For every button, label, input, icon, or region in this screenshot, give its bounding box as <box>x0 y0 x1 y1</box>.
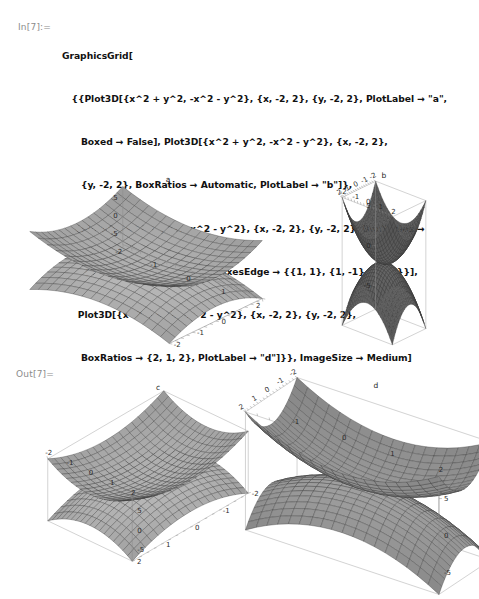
axis-tick-label: -2 <box>368 171 378 181</box>
axis-tick-label: 0 <box>113 212 117 220</box>
axis-tick-label: 0 <box>222 318 226 326</box>
axis-tick-label: 0 <box>263 385 271 394</box>
axis-tick-label: -1 <box>359 175 369 185</box>
plot-title: a <box>166 175 171 184</box>
axis-tick-label: -1 <box>275 376 285 386</box>
axis-tick-label: -5 <box>364 282 371 290</box>
plot3d-panel-b[interactable]: 50-5-2-1012-2-1012b <box>288 168 468 350</box>
axis-tick-label: -2 <box>174 341 181 349</box>
axis-tick-label: 1 <box>166 541 170 549</box>
axis-tick-label: 1 <box>390 450 394 458</box>
plot3d-panel-c[interactable]: -2-101250-5210-1-2c <box>40 378 255 583</box>
axis-tick-label: 0 <box>186 275 190 283</box>
axis-tick-label: 2 <box>256 302 260 310</box>
axis-tick-label: 0 <box>352 180 360 189</box>
plot-title: c <box>156 383 160 392</box>
axis-tick-label: 2 <box>391 208 395 216</box>
axis-tick-label: -1 <box>150 261 157 269</box>
axis-tick-label: -1 <box>197 329 204 337</box>
code-line: BoxRatios → {2, 1, 2}, PlotLabel → "d"]}… <box>62 351 447 365</box>
plot3d-panel-a[interactable]: 50-5-2-10120-1-2a <box>18 170 258 345</box>
axis-tick-label: 2 <box>131 489 135 497</box>
axis-tick-label: 0 <box>137 527 141 535</box>
axis-tick-label: 1 <box>379 203 383 211</box>
axis-tick-label: 0 <box>444 532 448 540</box>
axis-tick-label: -1 <box>223 507 230 515</box>
axis-tick-label: -1 <box>352 193 359 201</box>
axis-tick-label: -2 <box>45 449 52 457</box>
axis-tick-label: -5 <box>111 230 118 238</box>
axis-tick-label: 0 <box>195 524 199 532</box>
mathematica-notebook: In[7]:= GraphicsGrid[ {{Plot3D[{x^2 + y^… <box>0 0 479 599</box>
axis-tick-label: 0 <box>366 242 370 250</box>
plot-title: d <box>374 381 379 390</box>
axis-tick-label: 0 <box>89 469 93 477</box>
axis-tick-label: 2 <box>439 466 443 474</box>
axis-tick-label: 0 <box>342 434 346 442</box>
axis-tick-label: -2 <box>115 248 122 256</box>
code-line: Boxed → False], Plot3D[{x^2 + y^2, -x^2 … <box>62 135 447 149</box>
axis-tick-label: -5 <box>444 569 451 577</box>
axis-tick-label: 2 <box>137 558 141 566</box>
code-line: GraphicsGrid[ <box>62 49 447 63</box>
axis-tick-label: -5 <box>137 546 144 554</box>
axis-tick-label: 5 <box>444 495 448 503</box>
axis-tick-label: -1 <box>66 459 73 467</box>
code-line: {{Plot3D[{x^2 + y^2, -x^2 - y^2}, {x, -2… <box>62 92 447 106</box>
axis-tick-label: 5 <box>137 507 141 515</box>
axis-tick-label: 1 <box>221 288 225 296</box>
plot3d-panel-d[interactable]: -1012-2-101250-5d <box>258 378 473 583</box>
axis-tick-label: 0 <box>366 198 370 206</box>
input-prompt-label: In[7]:= <box>18 22 51 32</box>
axis-tick-label: 5 <box>113 194 117 202</box>
plot-title: b <box>382 171 387 180</box>
axis-tick-label: -1 <box>292 418 299 426</box>
axis-tick-label: 1 <box>110 479 114 487</box>
